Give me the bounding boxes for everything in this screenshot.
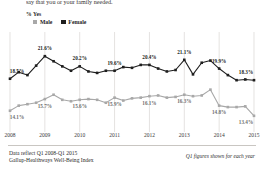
- data-point-female: [44, 55, 47, 58]
- x-axis: 20082009201020112012201320142015: [0, 132, 264, 144]
- data-point-male: [122, 99, 125, 102]
- data-point-male: [244, 105, 247, 108]
- data-point-female: [113, 69, 116, 72]
- data-point-male: [148, 95, 151, 98]
- data-label-male: 15.6%: [73, 103, 87, 109]
- question-text: say that you or your family needed.: [26, 0, 256, 6]
- data-point-female: [35, 64, 38, 67]
- data-point-female: [244, 78, 247, 81]
- footer-line-1: Data reflect Q1 2008-Q1 2015: [9, 150, 94, 157]
- legend-swatch-female-icon: [61, 20, 65, 24]
- data-label-female: 20.2%: [73, 55, 87, 61]
- data-point-female: [253, 79, 256, 82]
- data-label-female: 21.6%: [38, 45, 52, 51]
- data-point-male: [78, 99, 81, 102]
- x-tick-2009: 2009: [39, 132, 50, 138]
- data-point-female: [122, 66, 125, 69]
- data-point-female: [218, 67, 221, 70]
- data-point-female: [148, 64, 151, 67]
- data-point-male: [209, 88, 212, 91]
- data-point-male: [157, 94, 160, 97]
- footer-line-2: Gallup-Healthways Well-Being Index: [9, 157, 94, 164]
- data-point-male: [96, 99, 99, 102]
- data-point-female: [157, 67, 160, 70]
- data-label-male: 15.9%: [107, 101, 121, 107]
- data-point-male: [139, 96, 142, 99]
- data-label-male: 15.7%: [38, 103, 52, 109]
- data-point-male: [87, 98, 90, 101]
- data-point-female: [166, 70, 169, 73]
- data-point-male: [131, 97, 134, 100]
- data-point-female: [52, 60, 55, 63]
- data-point-female: [131, 67, 134, 70]
- data-point-male: [52, 93, 55, 96]
- data-label-male: 16.3%: [177, 98, 191, 104]
- data-point-male: [61, 99, 64, 102]
- x-tick-2013: 2013: [179, 132, 190, 138]
- legend-item-female: Female: [61, 19, 86, 25]
- data-point-male: [70, 100, 73, 103]
- x-tick-2011: 2011: [109, 132, 120, 138]
- x-tick-2015: 2015: [249, 132, 260, 138]
- data-point-female: [192, 73, 195, 76]
- data-point-female: [235, 79, 238, 82]
- data-label-male: 16.1%: [142, 100, 156, 106]
- data-point-female: [87, 70, 90, 73]
- data-label-female: 19.9%: [212, 58, 226, 64]
- data-point-male: [183, 93, 186, 96]
- data-point-female: [139, 64, 142, 67]
- data-point-female: [183, 59, 186, 62]
- data-point-male: [17, 104, 20, 107]
- data-label-female: 18.3%: [239, 69, 253, 75]
- data-label-female: 19.6%: [107, 60, 121, 66]
- data-point-female: [9, 77, 12, 80]
- chart-legend: Male Female: [33, 19, 86, 25]
- data-point-male: [113, 96, 116, 99]
- data-point-female: [78, 65, 81, 68]
- data-point-male: [227, 106, 230, 109]
- data-label-female: 20.4%: [142, 54, 156, 60]
- data-point-female: [227, 74, 230, 77]
- data-point-female: [26, 74, 29, 77]
- data-point-female: [96, 72, 99, 75]
- footer-divider: [8, 145, 256, 146]
- x-tick-2010: 2010: [74, 132, 85, 138]
- data-point-female: [70, 69, 73, 72]
- data-point-female: [105, 69, 108, 72]
- data-point-female: [200, 61, 203, 64]
- data-point-male: [26, 103, 29, 106]
- data-label-male: 14.1%: [10, 114, 24, 120]
- chart-figure: say that you or your family needed. % Ye…: [0, 0, 264, 175]
- legend-swatch-male-icon: [33, 20, 37, 24]
- data-point-male: [218, 104, 221, 107]
- data-point-male: [253, 115, 256, 118]
- legend-label-male: Male: [40, 19, 53, 25]
- data-label-female: 18.5%: [10, 68, 24, 74]
- x-tick-2014: 2014: [214, 132, 225, 138]
- data-point-female: [61, 65, 64, 68]
- data-point-male: [44, 98, 47, 101]
- data-point-male: [235, 106, 238, 109]
- footer-source: Data reflect Q1 2008-Q1 2015 Gallup-Heal…: [9, 150, 94, 165]
- x-tick-2012: 2012: [144, 132, 155, 138]
- data-point-male: [200, 94, 203, 97]
- footer-note: Q1 figures shown for each year: [186, 153, 255, 159]
- data-label-male: 13.4%: [239, 119, 253, 125]
- data-label-male: 14.8%: [212, 109, 226, 115]
- legend-label-female: Female: [68, 19, 86, 25]
- data-point-male: [166, 96, 169, 99]
- data-point-male: [9, 109, 12, 112]
- legend-item-male: Male: [33, 19, 52, 25]
- data-label-female: 21.1%: [177, 49, 191, 55]
- data-point-female: [174, 69, 177, 72]
- axis-unit-label: % Yes: [26, 11, 41, 17]
- x-tick-2008: 2008: [5, 132, 16, 138]
- plot-area: 18.5%21.6%20.2%19.6%20.4%21.1%19.9%18.3%…: [0, 30, 264, 132]
- data-point-male: [192, 95, 195, 98]
